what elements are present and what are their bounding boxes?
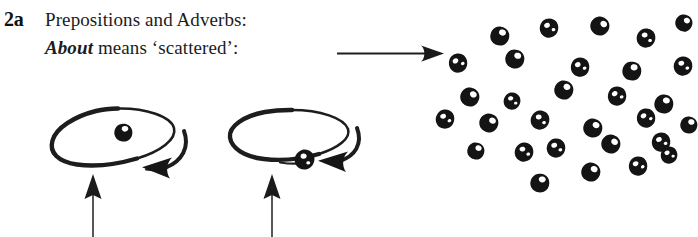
scatter-dot [457, 84, 483, 110]
scatter-dot [513, 141, 536, 164]
scatter-dot [537, 16, 562, 41]
caption-text-block: 2a Prepositions and Adverbs: About means… [0, 0, 460, 80]
scatter-dot [633, 105, 659, 131]
orbit-diagram-2 [230, 110, 359, 172]
illustration-page: 2a Prepositions and Adverbs: About means… [0, 0, 698, 237]
heading-label: Prepositions and Adverbs: [45, 9, 247, 31]
scatter-dot [635, 27, 657, 49]
scatter-dot [598, 131, 624, 157]
scatter-dot [578, 159, 603, 184]
scatter-dot [672, 12, 695, 35]
scatter-dot [580, 116, 605, 141]
scatter-dot [465, 140, 487, 162]
orbit-dot-inside [114, 124, 132, 142]
callout-arrow-left-orbit [85, 174, 102, 237]
scatter-dot [502, 91, 522, 111]
scatter-dot [529, 109, 550, 131]
scatter-dot [625, 153, 651, 179]
scatter-dot [604, 83, 630, 109]
keyword-about: About [45, 37, 93, 58]
scatter-dot [678, 115, 698, 136]
scatter-dot [586, 13, 613, 40]
scatter-dot [621, 60, 642, 81]
scattered-dots-cluster [433, 12, 698, 194]
scatter-dot [503, 47, 527, 71]
scatter-dot [476, 110, 502, 136]
definition-label: About means ‘scattered’: [45, 37, 238, 59]
scatter-dot [671, 54, 694, 78]
orbit-diagram-1 [52, 108, 186, 178]
orbit-dot-on-rim [295, 150, 315, 170]
scatter-dot [653, 93, 675, 115]
callout-arrow-right-orbit [264, 174, 281, 237]
item-number-label: 2a [4, 8, 24, 31]
scatter-dot [529, 172, 551, 194]
scatter-dot [488, 25, 511, 48]
definition-meaning: means ‘scattered’: [93, 37, 238, 58]
scatter-dot [551, 78, 576, 103]
scatter-dot [433, 107, 457, 131]
scatter-dot [544, 136, 568, 160]
scatter-dot [567, 54, 593, 80]
